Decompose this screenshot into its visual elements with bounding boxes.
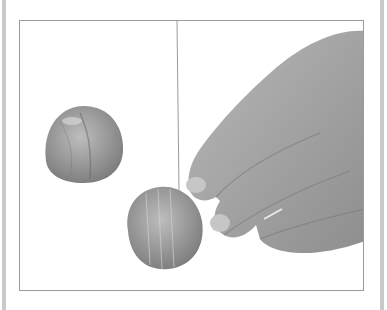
knife-blade [177, 21, 179, 191]
left-border-bar [2, 0, 6, 310]
photo-frame: Hand holding a shallot while a knife sli… [19, 20, 364, 291]
sliced-shallot [127, 187, 202, 269]
hand [186, 31, 364, 253]
whole-shallot [44, 106, 124, 183]
right-border-bar [380, 0, 384, 310]
photo-illustration [20, 21, 364, 291]
